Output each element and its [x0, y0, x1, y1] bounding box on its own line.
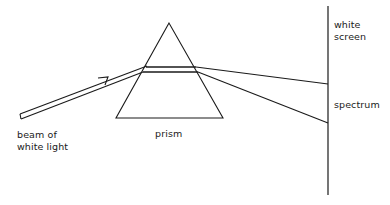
prism-label: prism: [155, 128, 182, 140]
beam-label: beam of white light: [17, 129, 68, 153]
prism-triangle: [116, 23, 223, 118]
prism-dispersion-diagram: [0, 0, 390, 205]
white-light-beam: [20, 66, 147, 119]
screen-label: white screen: [334, 19, 366, 43]
exit-ray-red: [196, 67, 328, 84]
exit-ray-violet: [198, 72, 328, 123]
spectrum-label: spectrum: [334, 99, 380, 111]
